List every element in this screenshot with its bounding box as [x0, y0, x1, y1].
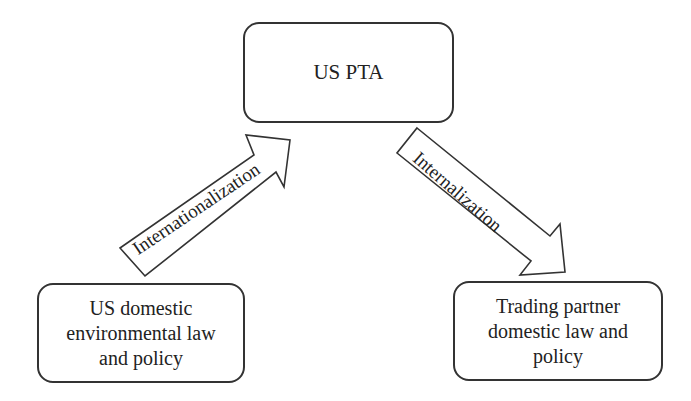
us-domestic-policy-label: US domestic environmental law and policy [66, 296, 215, 371]
us-pta-node: US PTA [243, 22, 454, 123]
trading-partner-policy-node: Trading partner domestic law and policy [453, 281, 663, 381]
us-domestic-policy-node: US domestic environmental law and policy [37, 283, 245, 383]
us-pta-label: US PTA [313, 60, 383, 85]
trading-partner-policy-label: Trading partner domestic law and policy [488, 294, 628, 369]
